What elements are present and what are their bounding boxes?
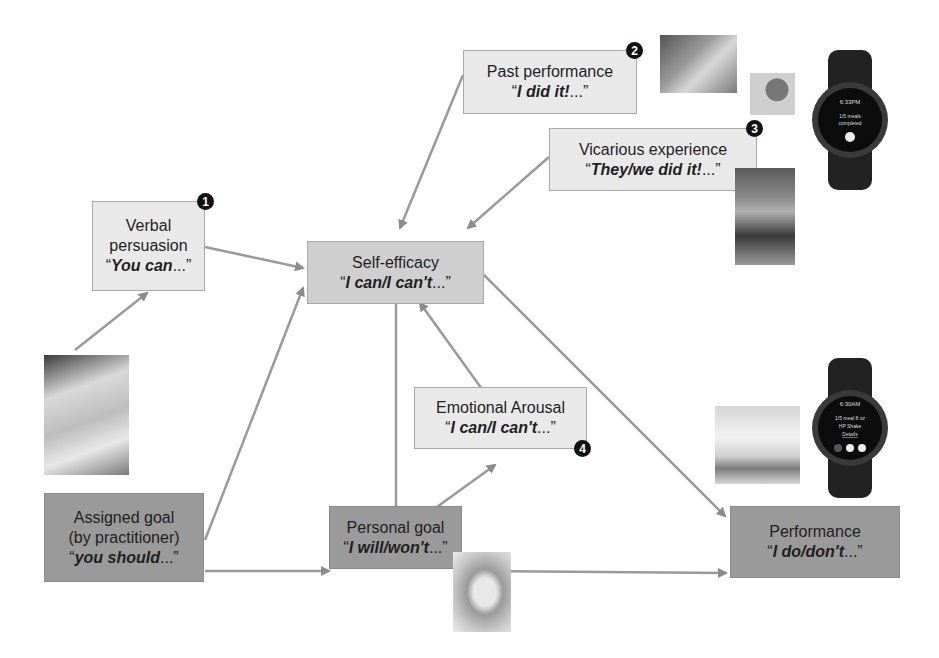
photo-walkers [735, 168, 795, 265]
photo-pills [750, 73, 795, 115]
photo-woman-food-choice [715, 406, 800, 484]
photo-doctor-patient [44, 355, 129, 475]
node-label-line2: persuasion [109, 236, 187, 256]
node-label: Personal goal [347, 518, 445, 538]
check-icon [845, 132, 855, 142]
play-icon [858, 444, 866, 452]
node-self-efficacy: Self-efficacy “I can/I can't...” [307, 241, 484, 304]
photo-smiling-woman [453, 552, 511, 632]
watch-line1: 1/5 meals [839, 113, 861, 119]
node-label-line2: (by practitioner) [68, 528, 179, 548]
node-quote: “I can/I can't...” [445, 418, 556, 438]
node-quote: “I can/I can't...” [340, 273, 451, 293]
node-label: Vicarious experience [579, 140, 727, 160]
arrow-past-to-self [400, 75, 463, 228]
node-past-performance: Past performance “I did it!...” [463, 50, 637, 114]
watch-details-link: Details [842, 431, 858, 437]
node-label: Past performance [487, 62, 613, 82]
smartwatch-meal-details: 6:30AM 1/5 meal 8 oz HP Shake Details [810, 358, 890, 498]
node-label: Self-efficacy [352, 253, 439, 273]
badge-1: 1 [197, 193, 214, 210]
node-label: Performance [769, 522, 861, 542]
photo-pharmacy [660, 35, 737, 93]
check-icon [846, 444, 854, 452]
arrow-doctor-to-verbal [75, 293, 147, 350]
node-quote: “you should...” [69, 548, 178, 568]
badge-2: 2 [626, 42, 643, 59]
badge-4: 4 [574, 440, 591, 457]
node-quote: “I do/don't...” [767, 542, 862, 562]
arrow-vicarious-to-self [468, 157, 549, 228]
watch-line2: HP Shake [839, 423, 862, 429]
node-quote: “They/we did it!...” [585, 160, 720, 180]
watch-line2: completed [838, 120, 861, 126]
arrow-verbal-to-self [205, 247, 303, 268]
arrow-assigned-to-self [205, 288, 303, 540]
node-assigned-goal: Assigned goal (by practitioner) “you sho… [44, 493, 204, 582]
watch-time: 6:33PM [840, 99, 861, 105]
node-vicarious-experience: Vicarious experience “They/we did it!...… [549, 128, 757, 191]
watch-line1: 1/5 meal 8 oz [835, 415, 866, 421]
node-label-line1: Assigned goal [74, 508, 175, 528]
node-label: Emotional Arousal [436, 398, 565, 418]
node-label-line1: Verbal [126, 216, 171, 236]
watch-time: 6:30AM [840, 401, 861, 407]
smartwatch-meals-completed: 6:33PM 1/5 meals completed [810, 50, 890, 190]
node-quote: “You can...” [106, 256, 192, 276]
node-verbal-persuasion: Verbal persuasion “You can...” [92, 201, 205, 291]
edit-icon [834, 444, 842, 452]
node-emotional-arousal: Emotional Arousal “I can/I can't...” [414, 387, 587, 449]
node-quote: “I did it!...” [512, 82, 588, 102]
node-personal-goal: Personal goal “I will/won't...” [329, 506, 462, 569]
badge-3: 3 [746, 120, 763, 137]
node-performance: Performance “I do/don't...” [730, 506, 900, 578]
node-quote: “I will/won't...” [343, 538, 447, 558]
